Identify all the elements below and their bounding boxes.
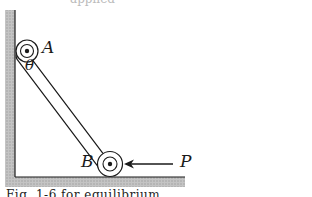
diagram-canvas xyxy=(0,0,312,197)
label-a: A xyxy=(42,39,54,56)
mechanics-diagram: A θ B P Fig. 1-6 for equilibrium applied xyxy=(0,0,312,197)
label-theta: θ xyxy=(25,58,34,73)
bar-ab xyxy=(22,56,105,166)
wall xyxy=(5,10,15,187)
label-b: B xyxy=(81,153,94,170)
cut-off-text: applied xyxy=(70,0,115,6)
figure-caption: Fig. 1-6 for equilibrium xyxy=(6,188,160,197)
floor xyxy=(5,177,185,187)
force-arrow-p xyxy=(124,160,173,169)
label-p: P xyxy=(180,153,191,170)
roller-b xyxy=(98,152,123,177)
